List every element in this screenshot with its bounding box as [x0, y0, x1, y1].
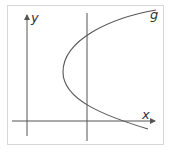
graph-canvas: y x g [0, 0, 171, 153]
curve-label-g: g [150, 7, 158, 22]
x-axis-label: x [141, 107, 150, 122]
y-axis-label: y [30, 10, 39, 25]
